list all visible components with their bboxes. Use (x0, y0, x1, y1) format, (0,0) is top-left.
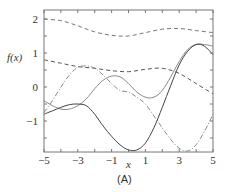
ticks-layer (44, 10, 213, 152)
x-tick-label: −5 (38, 154, 50, 166)
plot-frame (44, 10, 213, 152)
x-axis-label: x (125, 158, 131, 170)
y-tick-label: 0 (33, 81, 39, 93)
series-sample-dashed-middle (44, 60, 213, 94)
y-tick-label: −1 (26, 115, 38, 127)
series-sample-solid-dark (44, 44, 213, 151)
x-tick-label: 1 (143, 154, 149, 166)
y-tick-label: 2 (33, 13, 39, 25)
series-sample-dashed-upper (44, 19, 213, 36)
panel-label: (A) (117, 173, 132, 185)
y-axis-label: f(x) (7, 51, 23, 64)
line-chart: −5−3−1135−1012 f(x) x (A) (0, 0, 228, 192)
x-tick-label: 3 (176, 154, 182, 166)
x-tick-label: −1 (106, 154, 118, 166)
y-tick-label: 1 (33, 47, 39, 59)
x-tick-label: 5 (210, 154, 216, 166)
series-layer (44, 19, 213, 151)
x-tick-label: −3 (72, 154, 84, 166)
series-sample-solid-light (44, 44, 213, 110)
